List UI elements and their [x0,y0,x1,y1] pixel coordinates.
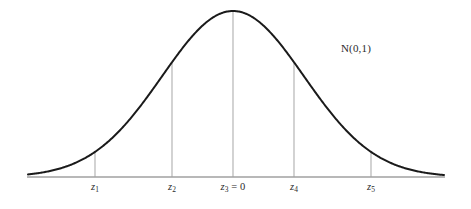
gridline-group [95,11,371,177]
tick-label-z2: z2 [168,181,176,192]
tick-label-z1: z1 [91,181,99,192]
bell-curve-path [28,11,444,175]
tick-label-subscript: 4 [294,185,298,194]
tick-label-z5: z5 [367,181,375,192]
distribution-plot [0,0,471,209]
tick-label-subscript: 3 [225,185,229,194]
tick-label-suffix: = 0 [229,181,246,192]
tick-label-z4: z4 [290,181,298,192]
normal-distribution-figure: z1z2z3 = 0z4z5 N(0,1) [0,0,471,209]
tick-label-z3: z3 = 0 [221,181,246,192]
tick-label-subscript: 2 [172,185,176,194]
tick-label-subscript: 5 [371,185,375,194]
tick-label-subscript: 1 [95,185,99,194]
distribution-annotation-label: N(0,1) [341,42,371,54]
